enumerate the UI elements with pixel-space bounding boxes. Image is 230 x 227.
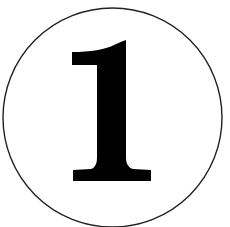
number-badge: 1: [0, 0, 230, 227]
number-one-circle-icon: [0, 0, 230, 227]
